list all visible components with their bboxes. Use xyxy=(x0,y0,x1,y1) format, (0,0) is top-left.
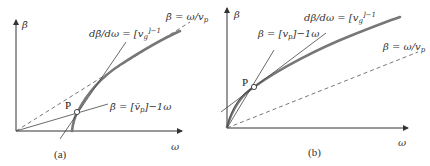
panel-a-phase-line-label: β̄ = ω/vp xyxy=(165,11,209,24)
panel-a-point-label: P xyxy=(65,99,71,111)
panel-a-secant xyxy=(16,104,108,131)
panel-b-secant-label: β = [vp]−1ω xyxy=(257,28,319,41)
panel-a: β̄ ω P dβ̄/dω = [vg]−1 β̄ = ω/vp β̄ = [v… xyxy=(16,11,209,161)
panel-b-phase-line xyxy=(227,52,418,128)
dispersion-diagram: β̄ ω P dβ̄/dω = [vg]−1 β̄ = ω/vp β̄ = [v… xyxy=(0,0,430,166)
panel-b-point-p xyxy=(251,84,256,89)
panel-a-dispersion-curve xyxy=(72,31,180,131)
panel-a-point-p xyxy=(74,109,79,114)
panel-b-phase-line-label: β = ω/vp xyxy=(382,41,426,54)
panel-b-y-axis-label: β xyxy=(233,9,240,20)
panel-a-secant-label: β̄ = [v̄p]−1ω xyxy=(109,101,171,114)
panel-b-group-tangent xyxy=(221,33,326,112)
panel-a-group-tangent-label: dβ̄/dω = [vg]−1 xyxy=(89,27,161,41)
panel-a-x-axis-label: ω xyxy=(171,141,179,152)
panel-b-point-label: P xyxy=(242,76,248,88)
panel-a-caption: (a) xyxy=(54,148,67,161)
panel-b-group-tangent-label: dβ/dω = [vg]−1 xyxy=(304,11,376,25)
panel-b-x-axis-label: ω xyxy=(398,137,406,148)
panel-b: β ω P dβ/dω = [vg]−1 β = [vp]−1ω β = ω/v… xyxy=(221,8,426,159)
panel-a-y-axis-label: β̄ xyxy=(21,19,28,30)
panel-a-group-tangent xyxy=(60,42,126,139)
panel-b-caption: (b) xyxy=(308,146,321,159)
panel-b-secant xyxy=(227,50,274,128)
